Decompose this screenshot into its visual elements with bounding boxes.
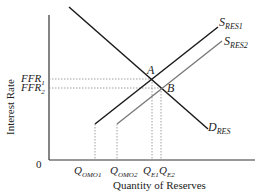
qomo2-label: QOMO2 (110, 164, 138, 179)
qe2-label: QE2 (159, 164, 175, 179)
supply1-label: SRES1 (219, 15, 243, 31)
reserves-market-diagram: SRES1 SRES2 DRES A B FFR1 FFR2 0 QOMO1 Q… (0, 0, 263, 192)
demand-label: DRES (207, 120, 230, 136)
guide-lines (49, 79, 161, 160)
qe1-label: QE1 (143, 164, 159, 179)
x-axis-title: Quantity of Reserves (113, 179, 206, 191)
point-a-label: A (146, 63, 155, 77)
supply2-label: SRES2 (224, 34, 248, 50)
supply1-curve (95, 27, 218, 124)
origin-label: 0 (36, 158, 42, 170)
point-b-label: B (167, 81, 175, 95)
qomo1-label: QOMO1 (74, 164, 101, 179)
y-axis-title: Interest Rate (4, 79, 16, 135)
